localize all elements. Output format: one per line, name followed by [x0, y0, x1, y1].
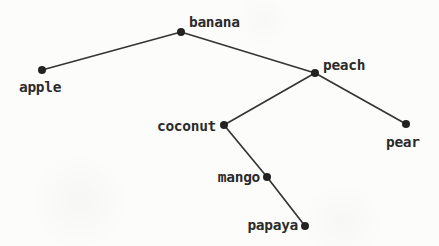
node-label-peach: peach	[323, 57, 365, 73]
tree-edge-banana-apple	[42, 32, 181, 70]
node-label-apple: apple	[19, 79, 62, 95]
tree-svg: bananaapplepeachcoconutpearmangopapaya	[0, 0, 439, 246]
node-dot-peach	[311, 69, 319, 77]
fruit-tree-diagram: bananaapplepeachcoconutpearmangopapaya	[0, 0, 439, 246]
node-dot-coconut	[220, 121, 228, 129]
node-label-banana: banana	[189, 14, 240, 30]
node-dot-apple	[38, 66, 46, 74]
tree-edge-banana-peach	[181, 32, 315, 73]
node-dot-mango	[263, 173, 271, 181]
node-dot-papaya	[301, 222, 309, 230]
node-dot-pear	[402, 120, 410, 128]
node-dot-banana	[177, 28, 185, 36]
tree-edge-peach-coconut	[224, 73, 315, 125]
tree-edge-peach-pear	[315, 73, 406, 124]
node-label-mango: mango	[218, 169, 261, 185]
node-label-coconut: coconut	[157, 118, 216, 134]
node-label-pear: pear	[386, 134, 420, 150]
node-label-papaya: papaya	[247, 217, 298, 233]
